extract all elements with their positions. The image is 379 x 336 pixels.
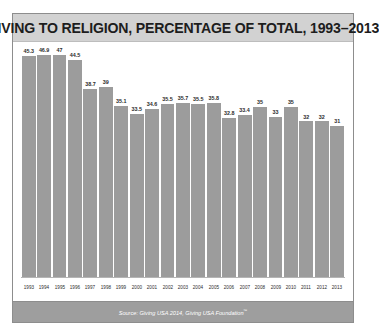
x-axis-tick-label: 2008 bbox=[254, 281, 267, 293]
source-note: Source: Giving USA 2014, Giving USA Foun… bbox=[119, 309, 248, 316]
bar-value-label: 44.5 bbox=[70, 53, 81, 58]
x-axis-tick-label: 2005 bbox=[207, 281, 220, 293]
source-text: Source: Giving USA 2014, Giving USA Foun… bbox=[119, 309, 244, 315]
bar bbox=[207, 103, 221, 278]
bar bbox=[99, 87, 113, 278]
bar-column: 32 bbox=[315, 48, 329, 278]
bar-value-label: 33.4 bbox=[239, 108, 250, 113]
bar bbox=[114, 106, 128, 278]
bar bbox=[315, 121, 329, 278]
bar-column: 35.1 bbox=[114, 48, 128, 278]
bar-value-label: 32 bbox=[303, 115, 309, 120]
bar bbox=[68, 60, 82, 278]
x-axis-tick-label: 2012 bbox=[315, 281, 328, 293]
x-axis-tick-label: 2009 bbox=[269, 281, 282, 293]
bar bbox=[83, 89, 97, 278]
bar-value-label: 35.5 bbox=[193, 97, 204, 102]
chart-title: GIVING TO RELIGION, PERCENTAGE OF TOTAL,… bbox=[0, 19, 379, 36]
bar bbox=[253, 107, 267, 278]
x-axis-tick-label: 2011 bbox=[300, 281, 313, 293]
chart-figure: GIVING TO RELIGION, PERCENTAGE OF TOTAL,… bbox=[12, 13, 354, 323]
chart-title-band: GIVING TO RELIGION, PERCENTAGE OF TOTAL,… bbox=[13, 14, 353, 42]
x-axis-tick-label: 2002 bbox=[161, 281, 174, 293]
x-axis-tick-label: 2013 bbox=[331, 281, 344, 293]
bar-value-label: 38.7 bbox=[85, 82, 96, 87]
bar bbox=[161, 104, 175, 278]
x-axis-tick-label: 2000 bbox=[130, 281, 143, 293]
bar-column: 39 bbox=[99, 48, 113, 278]
bar-value-label: 32 bbox=[319, 115, 325, 120]
bar-value-label: 33 bbox=[272, 110, 278, 115]
bar-value-label: 45.3 bbox=[23, 49, 34, 54]
x-axis-tick-label: 1994 bbox=[38, 281, 51, 293]
bar-value-label: 32.8 bbox=[224, 111, 235, 116]
bar-column: 32 bbox=[299, 48, 313, 278]
x-axis-tick-label: 2010 bbox=[285, 281, 298, 293]
chart-source-band: Source: Giving USA 2014, Giving USA Foun… bbox=[13, 301, 353, 322]
bar-column: 38.7 bbox=[83, 48, 97, 278]
x-axis-tick-label: 2006 bbox=[223, 281, 236, 293]
bar bbox=[284, 107, 298, 278]
bar-column: 35 bbox=[253, 48, 267, 278]
x-axis-tick-label: 2001 bbox=[146, 281, 159, 293]
bar-column: 45.3 bbox=[22, 48, 36, 278]
bar bbox=[191, 104, 205, 278]
bar-series: 45.346.94744.538.73935.133.534.635.535.7… bbox=[21, 48, 345, 278]
bar-column: 35.8 bbox=[207, 48, 221, 278]
bar-value-label: 35.7 bbox=[178, 96, 189, 101]
bar-column: 31 bbox=[330, 48, 344, 278]
bar-column: 33.4 bbox=[238, 48, 252, 278]
bar bbox=[269, 117, 283, 278]
bar-column: 35.5 bbox=[161, 48, 175, 278]
bar bbox=[330, 126, 344, 278]
bar bbox=[176, 103, 190, 278]
x-axis-tick-label: 1998 bbox=[99, 281, 112, 293]
bar bbox=[130, 114, 144, 278]
bar-value-label: 35.5 bbox=[162, 97, 173, 102]
bar-column: 35.5 bbox=[191, 48, 205, 278]
bar bbox=[145, 109, 159, 278]
x-axis-tick-label: 1995 bbox=[53, 281, 66, 293]
bar bbox=[238, 115, 252, 278]
bar-column: 35 bbox=[284, 48, 298, 278]
bar bbox=[22, 56, 36, 278]
bar-value-label: 33.5 bbox=[131, 107, 142, 112]
bar-column: 44.5 bbox=[68, 48, 82, 278]
bar-column: 46.9 bbox=[37, 48, 51, 278]
bar-value-label: 31 bbox=[334, 119, 340, 124]
bar-value-label: 35.8 bbox=[209, 96, 220, 101]
x-axis-tick-label: 2003 bbox=[177, 281, 190, 293]
bar-value-label: 35 bbox=[257, 100, 263, 105]
x-axis-tick-label: 2004 bbox=[192, 281, 205, 293]
chart-plot-area: 45.346.94744.538.73935.133.534.635.535.7… bbox=[13, 42, 353, 301]
x-axis-tick-label: 1993 bbox=[22, 281, 35, 293]
bar-column: 33 bbox=[269, 48, 283, 278]
bar-column: 32.8 bbox=[222, 48, 236, 278]
x-axis-tick-label: 2007 bbox=[238, 281, 251, 293]
x-axis-tick-label: 1996 bbox=[69, 281, 82, 293]
bar bbox=[53, 55, 67, 278]
bar bbox=[222, 118, 236, 279]
x-axis-tick-label: 1999 bbox=[115, 281, 128, 293]
bar-column: 35.7 bbox=[176, 48, 190, 278]
trademark-symbol: ™ bbox=[244, 309, 248, 313]
bar-value-label: 34.6 bbox=[147, 102, 158, 107]
bar bbox=[299, 121, 313, 278]
bar-value-label: 35 bbox=[288, 100, 294, 105]
bar-value-label: 35.1 bbox=[116, 99, 127, 104]
x-axis-line bbox=[21, 277, 345, 278]
bar bbox=[37, 55, 51, 278]
bar-column: 47 bbox=[53, 48, 67, 278]
bar-value-label: 39 bbox=[103, 80, 109, 85]
bar-column: 34.6 bbox=[145, 48, 159, 278]
x-axis-tick-labels: 1993199419951996199719981999200020012002… bbox=[21, 281, 345, 293]
bar-column: 33.5 bbox=[130, 48, 144, 278]
bar-value-label: 46.9 bbox=[39, 48, 50, 53]
bar-value-label: 47 bbox=[57, 48, 63, 53]
x-axis-tick-label: 1997 bbox=[84, 281, 97, 293]
